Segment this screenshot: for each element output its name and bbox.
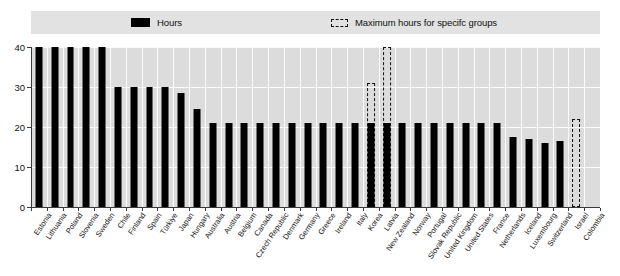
hours-bar [367, 123, 374, 207]
bar-group [537, 47, 553, 207]
bar-group [94, 47, 110, 207]
hours-bar [67, 47, 74, 207]
hours-bar [478, 123, 485, 207]
bar-group [426, 47, 442, 207]
hours-bar [541, 143, 548, 207]
hours-bar [193, 109, 200, 207]
bar-group [395, 47, 411, 207]
legend-item-hours: Hours [131, 11, 182, 34]
hours-bar [178, 93, 185, 207]
hours-bar [241, 123, 248, 207]
bar-group [63, 47, 79, 207]
bar-group [584, 47, 600, 207]
x-axis-labels: EstoniaLithuaniaPolandSloveniaSwedenChil… [31, 211, 600, 275]
bar-group [489, 47, 505, 207]
hours-bar [510, 137, 517, 207]
legend-item-max-hours-label: Maximum hours for specifc groups [355, 17, 497, 28]
hours-bar [525, 139, 532, 207]
hours-bar [288, 123, 295, 207]
hours-bar [320, 123, 327, 207]
bar-group [157, 47, 173, 207]
y-tick-label-10: 10 [1, 162, 25, 173]
bar-group [268, 47, 284, 207]
hours-bar [304, 123, 311, 207]
bar-group [78, 47, 94, 207]
hours-bar [557, 141, 564, 207]
hours-bar [415, 123, 422, 207]
hours-bar [114, 87, 121, 207]
bar-group [347, 47, 363, 207]
hours-bar [272, 123, 279, 207]
bar-group [521, 47, 537, 207]
hours-bar [130, 87, 137, 207]
hours-bar [146, 87, 153, 207]
hours-bar [209, 123, 216, 207]
bar-group [458, 47, 474, 207]
bar-group [173, 47, 189, 207]
y-tick-mark-40 [27, 47, 32, 48]
bar-group [410, 47, 426, 207]
legend-item-hours-label: Hours [157, 17, 182, 28]
hours-bar [35, 47, 42, 207]
hours-bar [399, 123, 406, 207]
y-tick-mark-10 [27, 167, 32, 168]
y-tick-mark-20 [27, 127, 32, 128]
bar-group [142, 47, 158, 207]
bar-group [553, 47, 569, 207]
hours-bar [446, 123, 453, 207]
bar-group [31, 47, 47, 207]
y-axis-labels: 010203040 [0, 0, 25, 276]
hours-bar [225, 123, 232, 207]
chart-legend: Hours Maximum hours for specifc groups [31, 11, 600, 34]
bar-group [379, 47, 395, 207]
hours-bar [336, 123, 343, 207]
x-tick-label: Korea [366, 211, 385, 233]
solid-black-square-icon [131, 18, 150, 27]
y-tick-label-0: 0 [1, 202, 25, 213]
hours-bar [162, 87, 169, 207]
bar-group [300, 47, 316, 207]
hours-bar [494, 123, 501, 207]
bar-group [252, 47, 268, 207]
bar-group [442, 47, 458, 207]
hours-bar [462, 123, 469, 207]
bar-group [205, 47, 221, 207]
hours-bar [83, 47, 90, 207]
bar-group [363, 47, 379, 207]
hours-bar [352, 123, 359, 207]
bar-group [110, 47, 126, 207]
bar-group [284, 47, 300, 207]
y-tick-label-20: 20 [1, 122, 25, 133]
bars-layer [31, 47, 600, 207]
bar-group [47, 47, 63, 207]
hours-bar [99, 47, 106, 207]
plot-area [31, 47, 600, 207]
y-tick-label-40: 40 [1, 42, 25, 53]
legend-item-max-hours: Maximum hours for specifc groups [331, 11, 497, 34]
bar-group [221, 47, 237, 207]
max-hours-bar [572, 119, 580, 207]
bar-group [505, 47, 521, 207]
bar-group [316, 47, 332, 207]
y-tick-mark-30 [27, 87, 32, 88]
hours-bar [431, 123, 438, 207]
hours-bar [51, 47, 58, 207]
bar-group [331, 47, 347, 207]
bar-group [236, 47, 252, 207]
bar-group [189, 47, 205, 207]
hours-bar [257, 123, 264, 207]
y-tick-label-30: 30 [1, 82, 25, 93]
bar-group [126, 47, 142, 207]
bar-group [474, 47, 490, 207]
bar-chart: Hours Maximum hours for specifc groups 0… [0, 0, 620, 276]
hours-bar [383, 123, 390, 207]
bar-group [568, 47, 584, 207]
dashed-outline-square-icon [331, 19, 348, 27]
